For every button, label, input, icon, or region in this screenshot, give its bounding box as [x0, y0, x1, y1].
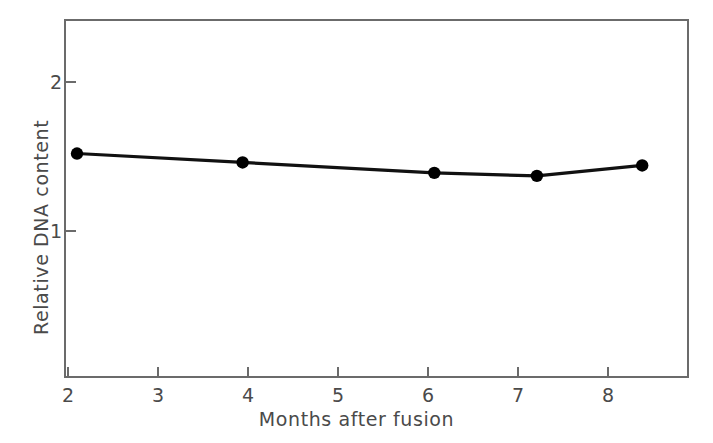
data-point [236, 156, 248, 168]
x-tick-label-4: 4 [233, 384, 263, 406]
y-tick-label-2: 2 [32, 71, 62, 93]
plot-frame [65, 20, 688, 377]
x-tick-label-7: 7 [503, 384, 533, 406]
x-tick-label-5: 5 [323, 384, 353, 406]
chart-figure: 2 1 2 3 4 5 6 7 8 Months after fusion Re… [0, 0, 713, 443]
x-tick-label-6: 6 [413, 384, 443, 406]
data-point [428, 167, 440, 179]
data-point [71, 147, 83, 159]
x-tick-label-3: 3 [143, 384, 173, 406]
x-tick-label-8: 8 [593, 384, 623, 406]
data-point [636, 159, 648, 171]
data-point [531, 170, 543, 182]
y-axis-title: Relative DNA content [30, 120, 52, 335]
x-tick-label-2: 2 [53, 384, 83, 406]
x-axis-title: Months after fusion [0, 408, 713, 430]
line-chart-plot [0, 0, 713, 443]
